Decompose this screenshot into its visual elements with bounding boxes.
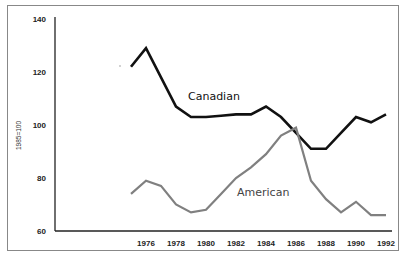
y-tick-label: 80	[37, 174, 46, 183]
x-tick-label: 1978	[167, 239, 185, 248]
x-tick-label: 1990	[347, 239, 365, 248]
x-axis: 197619781980198219841986198819901992	[55, 231, 395, 248]
x-tick-label: 1992	[377, 239, 395, 248]
x-tick-label: 1988	[317, 239, 335, 248]
x-tick-label: 1982	[227, 239, 245, 248]
series-line-canadian	[131, 48, 386, 149]
series-label-canadian: Canadian	[188, 90, 240, 103]
x-tick-label: 1984	[257, 239, 275, 248]
series-line-american	[131, 128, 386, 215]
x-tick-label: 1980	[197, 239, 215, 248]
series-label-american: American	[237, 186, 289, 199]
y-axis-label: 1985=100	[15, 121, 22, 150]
series-lines: CanadianAmerican	[119, 48, 386, 215]
stray-dot	[119, 65, 121, 67]
y-tick-label: 140	[33, 15, 47, 24]
x-tick-label: 1986	[287, 239, 305, 248]
line-chart: 6080100120140 19761978198019821984198619…	[0, 0, 404, 266]
x-tick-label: 1976	[137, 239, 155, 248]
y-axis: 6080100120140	[33, 15, 55, 236]
y-tick-label: 100	[33, 121, 47, 130]
y-tick-label: 120	[33, 68, 47, 77]
y-tick-label: 60	[37, 227, 46, 236]
